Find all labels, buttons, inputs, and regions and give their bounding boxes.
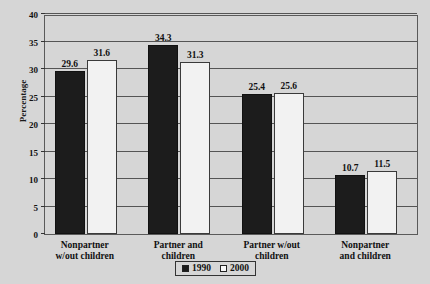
y-tick-label: 25 [4,98,38,99]
category-label-line: w/out children [35,251,135,262]
legend-swatch-icon [182,265,189,272]
bar-1990-3 [335,175,365,234]
bar-1990-0 [55,71,85,234]
bar-value-label: 34.3 [141,33,185,43]
category-label-line: Nonpartner [35,240,135,251]
y-tick-mark [41,151,45,152]
bar-2000-1 [180,62,210,234]
plot-area: 29.631.634.331.325.425.610.711.5 [44,15,418,235]
y-tick-mark [41,178,45,179]
bar-value-label: 25.6 [267,81,311,91]
category-label-line: Partner w/out [222,240,322,251]
category-label-0: Nonpartnerw/out children [35,240,135,262]
y-tick-label: 20 [4,125,38,126]
category-label-3: Nonpartnerand children [315,240,415,262]
category-label-2: Partner w/outchildren [222,240,322,262]
bar-2000-3 [367,171,397,234]
legend-label: 1990 [192,263,211,273]
bar-value-label: 31.3 [173,50,217,60]
y-tick-label: 35 [4,43,38,44]
category-label-line: Partner and [128,240,228,251]
y-tick-mark [41,68,45,69]
y-tick-mark [41,41,45,42]
y-tick-mark [41,13,45,14]
y-tick-label: 0 [4,235,38,236]
bar-value-label: 31.6 [80,48,124,58]
bar-2000-2 [274,93,304,234]
y-tick-label: 30 [4,70,38,71]
y-tick-label: 5 [4,208,38,209]
y-tick-mark [41,233,45,234]
gridline [45,41,417,42]
bar-value-label: 11.5 [360,159,404,169]
bar-2000-0 [87,60,117,234]
y-tick-mark [41,206,45,207]
y-tick-mark [41,96,45,97]
bar-chart: Percentage 29.631.634.331.325.425.610.71… [0,0,430,284]
bar-1990-1 [148,45,178,234]
bar-value-label: 29.6 [48,59,92,69]
legend-entry-1990: 1990 [182,263,211,273]
legend-swatch-icon [220,265,227,272]
legend-entry-2000: 2000 [220,263,249,273]
category-label-line: and children [315,251,415,262]
category-label-line: Nonpartner [315,240,415,251]
y-tick-mark [41,123,45,124]
gridline [45,13,417,14]
legend-label: 2000 [230,263,249,273]
chart-legend: 19902000 [175,261,256,276]
bar-1990-2 [242,94,272,234]
y-tick-label: 15 [4,153,38,154]
category-label-1: Partner andchildren [128,240,228,262]
y-tick-label: 40 [4,15,38,16]
y-tick-label: 10 [4,180,38,181]
